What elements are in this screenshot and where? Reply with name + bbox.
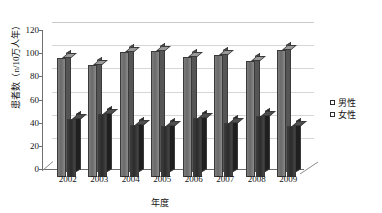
y-axis-title: 患者数（n/10万人年） [9,0,22,135]
bar-front [183,57,192,177]
bar-front [120,52,129,177]
bar-front [277,50,286,177]
y-tick-label: 80 [30,71,39,81]
bar-front [161,126,170,177]
bar-front [256,116,265,177]
y-tick-label: 40 [30,118,39,128]
bar-男性-2002 [57,58,66,177]
bar-男性-2007 [214,55,223,177]
bar-男性-2005 [151,51,160,177]
bar-front [287,126,296,177]
y-tick-label: 100 [26,48,40,58]
x-tick-label: 2009 [262,174,314,184]
bar-男性-2009 [277,50,286,177]
bar-side [202,110,207,172]
bar-女性-2007 [224,123,233,177]
bar-front [57,58,66,177]
bar-side [170,118,175,172]
y-axis-line [42,30,43,169]
bar-front [193,118,202,177]
legend-swatch-female [330,112,335,117]
legend-label-female: 女性 [338,108,356,121]
legend-item-male: 男性 [330,96,356,108]
bar-side [76,111,81,172]
bar-女性-2006 [193,118,202,177]
bar-top [135,120,150,125]
bar-top [219,50,234,55]
bar-top [125,47,140,52]
bar-男性-2004 [120,52,129,177]
bar-front [151,51,160,177]
y-tick-label: 120 [26,25,40,35]
bar-女性-2008 [256,116,265,177]
bar-front [67,119,76,177]
bar-女性-2009 [287,126,296,177]
bar-front [130,125,139,177]
bar-top [188,52,203,57]
bar-男性-2003 [88,65,97,177]
legend: 男性 女性 [330,96,356,120]
bar-top [166,121,181,126]
legend-swatch-male [330,100,335,105]
bar-front [98,114,107,177]
bar-top [251,56,266,61]
bar-side [233,114,238,172]
bar-top [292,121,307,126]
bar-side [107,106,112,172]
bar-front [246,61,255,177]
bar-side [139,117,144,172]
legend-item-female: 女性 [330,108,356,120]
gridline [52,22,314,23]
bar-女性-2005 [161,126,170,177]
plot-area [42,22,314,177]
floor-depth-line-left [42,161,56,171]
x-axis-title: 年度 [0,196,320,209]
y-tick-label: 20 [30,141,39,151]
bar-top [156,46,171,51]
bar-side [265,107,270,172]
bar-front [88,65,97,177]
bar-chart: 患者数（n/10万人年） 020406080100120 20022003200… [0,0,382,213]
bar-女性-2003 [98,114,107,177]
bar-top [62,53,77,58]
bar-top [93,60,108,65]
bar-男性-2008 [246,61,255,177]
bar-front [224,123,233,177]
bar-front [214,55,223,177]
bar-top [229,118,244,123]
gridline [52,45,314,46]
bar-女性-2002 [67,119,76,177]
bar-男性-2006 [183,57,192,177]
bar-女性-2004 [130,125,139,177]
y-tick-label: 60 [30,95,39,105]
